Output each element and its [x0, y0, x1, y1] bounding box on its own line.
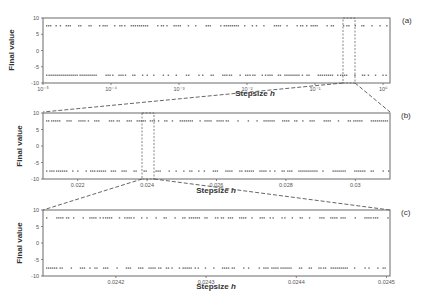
y-tick-label: 5 [36, 31, 39, 37]
x-tick-label: 0.0242 [107, 279, 124, 285]
panel-b-y-label: Final value [15, 125, 24, 167]
panel-c-x-label: Stepsize h [196, 282, 236, 291]
y-tick-label: -10 [31, 273, 39, 279]
zoom-connector-b-c-left [43, 179, 142, 210]
y-tick-label: 5 [36, 224, 39, 230]
x-tick-label: 0.024 [140, 182, 154, 188]
panel-b-y-axis: 1050-5-10 [31, 110, 43, 182]
y-tick-label: 0 [36, 240, 39, 246]
x-tick-label: 10⁻⁴ [105, 86, 117, 92]
panel-b-zoom-region [142, 113, 154, 179]
x-tick-label: 0.0245 [378, 279, 395, 285]
x-tick-label: 0.028 [279, 182, 293, 188]
y-tick-label: -5 [34, 160, 39, 166]
panel-a-x-axis: 10⁻⁵10⁻⁴10⁻³10⁻²10⁻¹10⁰ [37, 83, 388, 92]
panel-b-frame [43, 113, 390, 179]
panel-a-y-axis: 1050-5-10 [31, 15, 43, 86]
panel-c-y-label: Final value [15, 222, 24, 264]
y-tick-label: -5 [34, 64, 39, 70]
panel-c-x-axis: 0.02420.02430.02440.0245 [107, 276, 394, 285]
panel-c-y-axis: 1050-5-10 [31, 207, 43, 279]
x-tick-label: 10⁰ [379, 86, 388, 92]
panel-c-frame [43, 210, 390, 276]
panel-a: 1050-5-10 10⁻⁵10⁻⁴10⁻³10⁻²10⁻¹10⁰ Final … [7, 15, 412, 98]
panel-a-data-points [46, 25, 388, 76]
y-tick-label: 10 [33, 207, 39, 213]
panel-b-data-points [46, 120, 389, 171]
y-tick-label: 10 [33, 15, 39, 21]
y-tick-label: 0 [36, 143, 39, 149]
x-tick-label: 10⁻¹ [310, 86, 321, 92]
x-tick-label: 10⁻⁵ [37, 86, 48, 92]
x-tick-label: 0.0244 [288, 279, 305, 285]
panel-a-y-label: Final value [7, 29, 16, 71]
y-tick-label: -5 [34, 257, 39, 263]
x-tick-label: 0.03 [350, 182, 361, 188]
panel-c-label: (c) [401, 208, 411, 217]
zoom-connector-a-b-left [43, 83, 343, 112]
y-tick-label: 10 [33, 110, 39, 116]
panel-b-label: (b) [401, 111, 411, 120]
y-tick-label: -10 [31, 176, 39, 182]
panel-a-frame [43, 18, 390, 83]
panel-c: 1050-5-10 0.02420.02430.02440.0245 Final… [15, 207, 411, 291]
y-tick-label: 0 [36, 48, 39, 54]
panel-a-zoom-region [343, 18, 355, 83]
x-tick-label: 0.022 [71, 182, 85, 188]
panel-c-data-points [46, 217, 389, 268]
panel-b: 1050-5-10 0.0220.0240.0260.0280.03 Final… [15, 110, 411, 195]
x-tick-label: 10⁻³ [174, 86, 185, 92]
bifurcation-figure: 1050-5-10 10⁻⁵10⁻⁴10⁻³10⁻²10⁻¹10⁰ Final … [0, 0, 428, 305]
y-tick-label: 5 [36, 127, 39, 133]
panel-a-label: (a) [402, 16, 412, 25]
